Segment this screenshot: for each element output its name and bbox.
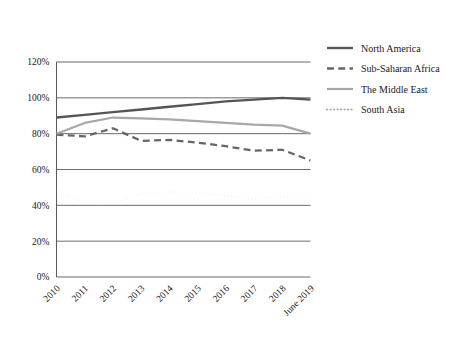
y-tick-label: 60% (32, 165, 50, 175)
y-tick-label: 40% (32, 201, 50, 211)
x-tick-label: 2014 (154, 283, 175, 304)
x-tick-label: June 2019 (281, 283, 316, 318)
series-line-the-middle-east (57, 118, 311, 134)
legend-label: The Middle East (361, 84, 428, 95)
y-axis-tick-labels: 0%20%40%60%80%100%120% (27, 57, 49, 282)
x-tick-label: 2013 (126, 283, 147, 304)
x-tick-label: 2011 (70, 283, 90, 303)
y-tick-label: 0% (37, 272, 50, 282)
data-series-group (57, 98, 311, 204)
legend-label: North America (361, 43, 421, 54)
legend-label: South Asia (361, 104, 405, 115)
series-line-south-asia (57, 191, 311, 204)
x-tick-label: 2017 (239, 283, 260, 304)
x-tick-label: 2015 (183, 283, 204, 304)
line-chart: 0%20%40%60%80%100%120% 20102011201220132… (0, 0, 454, 347)
x-tick-label: 2010 (41, 283, 62, 304)
series-line-north-america (57, 98, 311, 118)
legend-label: Sub-Saharan Africa (361, 63, 440, 74)
chart-legend: North AmericaSub-Saharan AfricaThe Middl… (327, 43, 440, 116)
y-tick-label: 20% (32, 237, 50, 247)
y-gridlines (57, 62, 311, 277)
y-tick-label: 80% (32, 129, 50, 139)
x-tick-label: 2018 (267, 283, 288, 304)
chart-canvas: 0%20%40%60%80%100%120% 20102011201220132… (0, 0, 454, 347)
x-tick-label: 2016 (211, 283, 232, 304)
series-line-sub-saharan-africa (57, 128, 311, 160)
x-axis-tick-labels: 201020112012201320142015201620172018June… (41, 283, 316, 318)
x-tick-label: 2012 (98, 283, 119, 304)
y-tick-label: 100% (27, 93, 49, 103)
y-tick-label: 120% (27, 57, 49, 67)
